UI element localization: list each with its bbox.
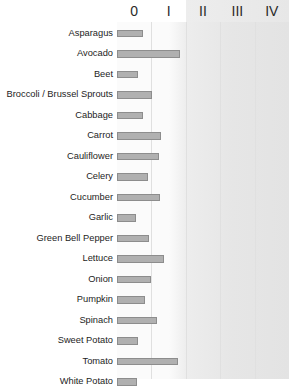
chart-row: Cucumber xyxy=(0,191,289,212)
bar-track xyxy=(117,276,151,283)
category-label: Avocado xyxy=(0,47,113,60)
category-label: Pumpkin xyxy=(0,293,113,306)
category-label: Carrot xyxy=(0,129,113,142)
bar xyxy=(117,255,164,262)
chart-row: White Potato xyxy=(0,375,289,390)
chart-row: Cabbage xyxy=(0,109,289,130)
category-label: Celery xyxy=(0,170,113,183)
chart-row: Green Bell Pepper xyxy=(0,232,289,253)
chart-row: Broccoli / Brussel Sprouts xyxy=(0,88,289,109)
bar xyxy=(117,30,143,37)
bar-track xyxy=(117,71,138,78)
bar-track xyxy=(117,30,143,37)
chart-row: Cauliflower xyxy=(0,150,289,171)
bar-track xyxy=(117,132,161,139)
chart-row: Tomato xyxy=(0,355,289,376)
bar xyxy=(117,358,178,365)
bar xyxy=(117,91,152,98)
bar-track xyxy=(117,255,164,262)
chart-row: Sweet Potato xyxy=(0,334,289,355)
bar xyxy=(117,71,138,78)
bar xyxy=(117,378,137,385)
bar-track xyxy=(117,235,149,242)
chart-row: Carrot xyxy=(0,129,289,150)
axis-tick-II: II xyxy=(186,1,220,21)
bar-track xyxy=(117,358,178,365)
bar xyxy=(117,112,143,119)
bar xyxy=(117,214,136,221)
category-label: Spinach xyxy=(0,314,113,327)
chart-row: Lettuce xyxy=(0,252,289,273)
category-label: Sweet Potato xyxy=(0,334,113,347)
category-label: Cucumber xyxy=(0,191,113,204)
bar-track xyxy=(117,337,138,344)
bar xyxy=(117,296,145,303)
bar-track xyxy=(117,153,159,160)
chart-row: Celery xyxy=(0,170,289,191)
category-label: Lettuce xyxy=(0,252,113,265)
bar-track xyxy=(117,317,157,324)
bar xyxy=(117,317,157,324)
bar-track xyxy=(117,296,145,303)
category-label: Asparagus xyxy=(0,27,113,40)
axis-tick-IV: IV xyxy=(255,1,289,21)
bar-track xyxy=(117,50,180,57)
bar-track xyxy=(117,194,160,201)
axis-tick-III: III xyxy=(220,1,254,21)
category-label: Broccoli / Brussel Sprouts xyxy=(0,88,113,101)
category-label: Garlic xyxy=(0,211,113,224)
category-label: White Potato xyxy=(0,375,113,388)
chart-row: Onion xyxy=(0,273,289,294)
bar xyxy=(117,235,149,242)
bar xyxy=(117,132,161,139)
bar-track xyxy=(117,91,152,98)
category-label: Cabbage xyxy=(0,109,113,122)
axis-tick-0: 0 xyxy=(117,1,151,21)
category-label: Beet xyxy=(0,68,113,81)
bar xyxy=(117,194,160,201)
chart-row: Avocado xyxy=(0,47,289,68)
axis-header: 0 I II III IV xyxy=(117,0,289,22)
bar xyxy=(117,50,180,57)
bar-track xyxy=(117,214,136,221)
category-label: Onion xyxy=(0,273,113,286)
chart-row: Beet xyxy=(0,68,289,89)
bar-track xyxy=(117,173,148,180)
bar xyxy=(117,173,148,180)
axis-tick-I: I xyxy=(151,1,185,21)
chart-row: Pumpkin xyxy=(0,293,289,314)
category-label: Tomato xyxy=(0,355,113,368)
bar xyxy=(117,337,138,344)
bar xyxy=(117,153,159,160)
chart-row: Spinach xyxy=(0,314,289,335)
bar-track xyxy=(117,112,143,119)
category-label: Cauliflower xyxy=(0,150,113,163)
chart-row: Asparagus xyxy=(0,27,289,48)
bar-track xyxy=(117,378,137,385)
category-label: Green Bell Pepper xyxy=(0,232,113,245)
bar xyxy=(117,276,151,283)
chart-row: Garlic xyxy=(0,211,289,232)
